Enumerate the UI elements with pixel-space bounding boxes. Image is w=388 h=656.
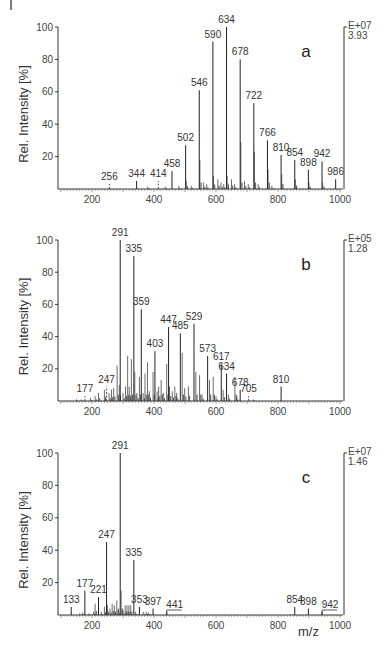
panel-letter: c	[302, 468, 311, 487]
y-tick-label: 40	[42, 119, 54, 130]
peak-label: 221	[90, 584, 107, 595]
y-tick-label: 100	[36, 448, 53, 459]
peak-label: 344	[128, 168, 145, 179]
spectrum-panel-a: 2040608010020040060080010002563444144585…	[16, 14, 372, 205]
peak-label: 177	[77, 383, 94, 394]
panel-letter: a	[301, 42, 311, 61]
peak-label: 722	[245, 90, 262, 101]
peak-label: 546	[191, 77, 208, 88]
peak-label: 898	[300, 596, 317, 607]
peak-label: 502	[177, 132, 194, 143]
y-tick-label: 80	[42, 267, 54, 278]
panel-letter: b	[301, 255, 310, 274]
peak-label: 590	[205, 29, 222, 40]
peak-label: 397	[145, 596, 162, 607]
peak-label: 291	[112, 227, 129, 238]
y-tick-label: 60	[42, 512, 54, 523]
x-tick-label: 400	[146, 194, 163, 205]
x-tick-label: 1000	[329, 620, 352, 631]
x-tick-label: 200	[84, 194, 101, 205]
x-tick-label: 200	[84, 406, 101, 417]
y-tick-label: 100	[36, 235, 53, 246]
peak-label: 335	[126, 243, 143, 254]
x-tick-label: 400	[146, 406, 163, 417]
y-tick-label: 40	[42, 331, 54, 342]
x-tick-label: 200	[84, 620, 101, 631]
scale-value: 3.93	[348, 30, 368, 41]
peak-label: 359	[133, 296, 150, 307]
spectrum-panel-c: 2040608010020040060080010001331772212472…	[16, 440, 372, 631]
peak-label: 634	[218, 361, 235, 372]
y-tick-label: 20	[42, 577, 54, 588]
x-tick-label: 1000	[329, 406, 352, 417]
peak-label: 335	[126, 547, 143, 558]
y-axis-title: Rel. Intensity [%]	[16, 491, 31, 589]
x-tick-label: 600	[208, 194, 225, 205]
y-tick-label: 80	[42, 480, 54, 491]
x-tick-label: 800	[270, 620, 287, 631]
peak-label: 705	[240, 383, 257, 394]
peak-label: 634	[218, 14, 235, 25]
peak-label: 766	[259, 127, 276, 138]
peak-label: 256	[101, 171, 118, 182]
y-tick-label: 40	[42, 545, 54, 556]
peak-label: 441	[166, 599, 183, 610]
x-tick-label: 600	[208, 406, 225, 417]
peak-label: 485	[172, 320, 189, 331]
scale-value: 1.46	[348, 456, 368, 467]
y-tick-label: 80	[42, 54, 54, 65]
peak-label: 529	[186, 311, 203, 322]
peak-label: 403	[147, 338, 164, 349]
x-tick-label: 1000	[329, 194, 352, 205]
y-axis-title: Rel. Intensity [%]	[16, 65, 31, 163]
peak-label: 810	[273, 374, 290, 385]
y-tick-label: 60	[42, 299, 54, 310]
y-tick-label: 100	[36, 22, 53, 33]
peak-label: 291	[112, 440, 129, 451]
x-tick-label: 800	[270, 194, 287, 205]
peak-label: 942	[322, 599, 339, 610]
peak-label: 414	[150, 168, 167, 179]
y-tick-label: 20	[42, 363, 54, 374]
x-tick-label: 600	[208, 620, 225, 631]
spectrum-panel-b: 2040608010020040060080010001772472913353…	[16, 227, 372, 417]
peak-label: 942	[314, 148, 331, 159]
y-axis-title: Rel. Intensity [%]	[16, 278, 31, 376]
peak-label: 247	[98, 374, 115, 385]
peak-label: 678	[232, 46, 249, 57]
peak-label: 986	[327, 166, 344, 177]
peak-label: 458	[164, 158, 181, 169]
mass-spectra-figure: 2040608010020040060080010002563444144585…	[0, 0, 388, 656]
scale-value: 1.28	[348, 243, 368, 254]
y-tick-label: 60	[42, 86, 54, 97]
x-tick-label: 400	[146, 620, 163, 631]
x-tick-label: 800	[270, 406, 287, 417]
peak-label: 247	[98, 529, 115, 540]
x-axis-title: m/z	[298, 624, 319, 639]
y-tick-label: 20	[42, 151, 54, 162]
peak-label: 133	[63, 594, 80, 605]
